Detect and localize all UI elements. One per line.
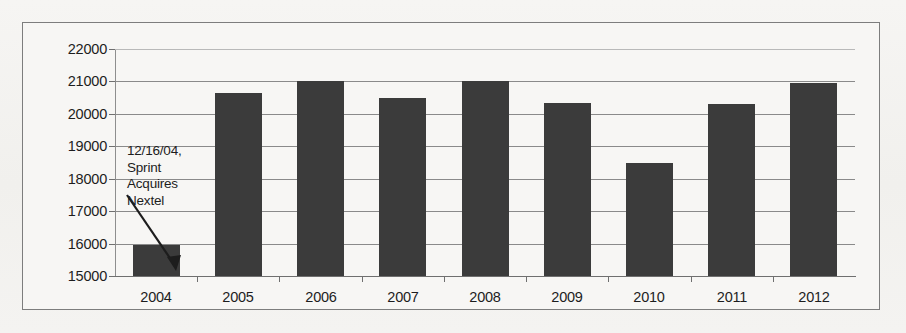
chart-frame: 2200021000200001900018000170001600015000… [22,22,880,310]
y-axis-tick-label: 17000 [41,203,107,219]
bar-2006 [297,81,344,276]
x-axis-tick-mark [362,276,363,282]
annotation-line: Sprint [127,160,219,177]
y-axis-tick-label: 19000 [41,138,107,154]
bar-2007 [379,98,426,276]
x-axis-tick-label-2004: 2004 [119,289,193,305]
x-axis-tick-label-2011: 2011 [695,289,769,305]
x-axis-tick-label-2008: 2008 [448,289,522,305]
y-axis-tick-label: 22000 [41,41,107,57]
bar-2005 [215,93,262,276]
y-axis-tick-label: 20000 [41,106,107,122]
x-axis-tick-mark [691,276,692,282]
x-axis-line [115,276,856,277]
x-axis-tick-label-2006: 2006 [284,289,358,305]
bar-2012 [790,83,837,276]
annotation-line: Nextel [127,193,219,210]
plot-area [115,49,855,276]
bar-2009 [544,103,591,276]
x-axis-tick-mark [526,276,527,282]
y-axis-labels: 2200021000200001900018000170001600015000 [31,49,107,276]
annotation-line: 12/16/04, [127,143,219,160]
annotation-line: Acquires [127,176,219,193]
y-axis-tick-label: 16000 [41,236,107,252]
bar-2011 [708,104,755,276]
y-axis-tick-label: 15000 [41,268,107,284]
x-axis-tick-label-2010: 2010 [612,289,686,305]
x-axis-tick-label-2005: 2005 [201,289,275,305]
bar-2004 [133,245,180,276]
x-axis-tick-mark [608,276,609,282]
x-axis-tick-mark [773,276,774,282]
x-axis-tick-mark [197,276,198,282]
annotation-label: 12/16/04,SprintAcquiresNextel [127,143,219,209]
bar-2008 [462,81,509,276]
x-axis-tick-label-2012: 2012 [777,289,851,305]
bar-2010 [626,163,673,277]
x-axis-tick-label-2009: 2009 [530,289,604,305]
gridline [115,49,855,50]
x-axis-tick-label-2007: 2007 [366,289,440,305]
x-axis-tick-mark [279,276,280,282]
y-axis-tick-label: 18000 [41,171,107,187]
x-axis-tick-mark [444,276,445,282]
y-axis-tick-label: 21000 [41,73,107,89]
